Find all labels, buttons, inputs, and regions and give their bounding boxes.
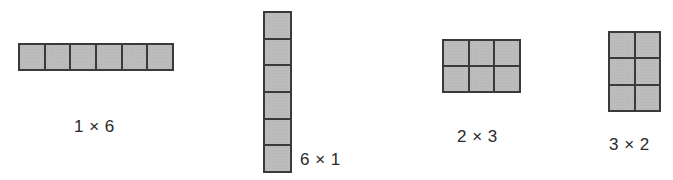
array-1x6 xyxy=(18,43,174,71)
array-cell xyxy=(609,32,635,58)
array-label-6x1: 6 × 1 xyxy=(300,150,341,170)
array-2x3 xyxy=(442,39,521,93)
array-3x2 xyxy=(608,31,661,112)
array-cell xyxy=(147,44,173,70)
array-cell xyxy=(469,40,495,66)
array-cell xyxy=(122,44,148,70)
array-cell xyxy=(609,58,635,84)
array-cell xyxy=(264,12,291,39)
array-cell xyxy=(264,92,291,119)
array-cell xyxy=(45,44,71,70)
array-cell xyxy=(494,66,520,92)
array-cell xyxy=(635,32,661,58)
array-label-2x3: 2 × 3 xyxy=(457,127,498,147)
array-6x1 xyxy=(263,11,292,173)
array-cell xyxy=(264,119,291,146)
array-cell xyxy=(494,40,520,66)
array-label-3x2: 3 × 2 xyxy=(609,135,650,155)
array-cell xyxy=(96,44,122,70)
array-cell xyxy=(264,39,291,66)
array-label-1x6: 1 × 6 xyxy=(74,117,115,137)
array-cell xyxy=(609,85,635,111)
array-cell xyxy=(635,58,661,84)
array-cell xyxy=(635,85,661,111)
array-cell xyxy=(443,40,469,66)
array-cell xyxy=(19,44,45,70)
array-cell xyxy=(264,65,291,92)
array-cell xyxy=(264,145,291,172)
array-cell xyxy=(469,66,495,92)
array-cell xyxy=(443,66,469,92)
array-cell xyxy=(70,44,96,70)
